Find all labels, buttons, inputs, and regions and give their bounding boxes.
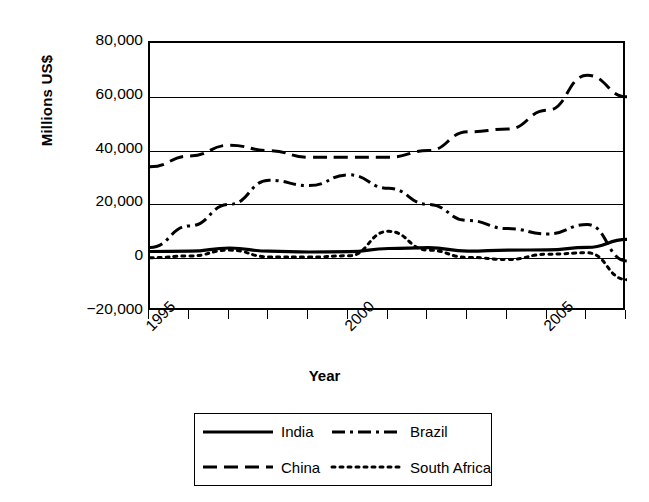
x-tick — [625, 310, 626, 319]
x-tick — [307, 310, 308, 319]
chart-figure: Millions US$ 80,00060,00040,00020,0000−2… — [0, 0, 649, 502]
legend-label: India — [281, 423, 314, 440]
legend-item-china[interactable]: China — [195, 459, 324, 476]
x-tick — [387, 310, 388, 319]
x-tick — [188, 310, 189, 319]
x-tick — [426, 310, 427, 319]
x-tick — [267, 310, 268, 319]
legend-item-south-africa[interactable]: South Africa — [324, 459, 491, 476]
y-axis-tick-labels: 80,00060,00040,00020,0000−20,000 — [48, 0, 143, 502]
legend-swatch-solid-icon — [201, 427, 275, 437]
x-tick-label: 1995 — [142, 298, 179, 335]
x-tick-label: 2005 — [540, 298, 577, 335]
x-axis-title: Year — [0, 367, 649, 384]
chart-legend: IndiaBrazilChinaSouth Africa — [194, 413, 492, 486]
y-tick-label: 60,000 — [51, 86, 143, 102]
legend-item-india[interactable]: India — [195, 423, 324, 440]
x-axis: 199520002005 — [148, 41, 625, 310]
legend-swatch-dash-dot-icon — [330, 427, 404, 437]
x-tick — [506, 310, 507, 319]
x-tick — [585, 310, 586, 319]
x-tick — [228, 310, 229, 319]
legend-item-brazil[interactable]: Brazil — [324, 423, 491, 440]
legend-swatch-dotted-icon — [330, 462, 404, 472]
legend-swatch-long-dash-icon — [201, 462, 275, 472]
y-tick-label: 40,000 — [51, 140, 143, 156]
y-tick-label: 80,000 — [51, 32, 143, 48]
legend-label: China — [281, 459, 320, 476]
legend-label: Brazil — [410, 423, 448, 440]
y-tick-label: 20,000 — [51, 193, 143, 209]
legend-label: South Africa — [410, 459, 491, 476]
y-tick-label: 0 — [51, 247, 143, 263]
x-tick — [466, 310, 467, 319]
y-tick-label: −20,000 — [51, 301, 143, 317]
x-tick-label: 2000 — [341, 298, 378, 335]
